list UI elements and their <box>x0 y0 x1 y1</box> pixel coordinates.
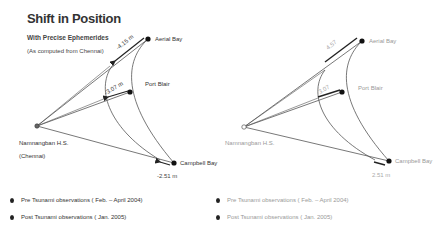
left-diagram: Aerial Bay Port Blair Campbell Bay Namna… <box>19 34 217 179</box>
label-campbell-bay: Campbell Bay <box>180 160 217 166</box>
right-station-campbell-bay-node <box>386 158 391 163</box>
right-diagram: Aerial Bay Port Blair Campbell Bay Namna… <box>225 38 432 178</box>
bullet-icon <box>216 215 220 220</box>
right-label-chennai: Namnangban H.S. <box>225 140 275 146</box>
right-shift-campbell-bay: 2.51 m <box>372 172 390 178</box>
label-chennai: Namnangban H.S. <box>19 140 69 146</box>
right-legend-pre-label: Pre Tsunami observations ( Feb. – April … <box>227 197 349 203</box>
bullet-icon <box>216 198 220 203</box>
right-label-campbell-bay: Campbell Bay <box>395 158 432 164</box>
station-chennai-node <box>35 124 39 128</box>
station-aerial-bay-node <box>145 36 150 41</box>
right-station-port-blair-node <box>339 89 344 94</box>
right-legend-post-label: Post Tsunami observations ( Jan. 2005) <box>227 214 332 220</box>
right-legend-pre-tsunami: Pre Tsunami observations ( Feb. – April … <box>216 197 349 203</box>
label-port-blair: Port Blair <box>145 81 170 87</box>
shift-campbell-bay: -2.51 m <box>157 173 177 179</box>
right-station-chennai-node <box>242 125 246 129</box>
legend-pre-label: Pre Tsunami observations ( Feb. – April … <box>21 197 143 203</box>
right-shift-aerial-bay: 4.57 <box>325 38 338 50</box>
bullet-icon <box>10 215 14 220</box>
right-label-port-blair: Port Blair <box>358 85 383 91</box>
legend-pre-tsunami: Pre Tsunami observations ( Feb. – April … <box>10 197 143 203</box>
right-station-aerial-bay-node <box>359 38 364 43</box>
station-campbell-bay-node <box>171 160 176 165</box>
right-label-aerial-bay: Aerial Bay <box>369 38 396 44</box>
label-chennai-line2: (Chennai) <box>19 153 45 159</box>
label-aerial-bay: Aerial Bay <box>155 36 182 42</box>
legend-post-tsunami: Post Tsunami observations ( Jan. 2005) <box>10 214 126 220</box>
right-legend-post-tsunami: Post Tsunami observations ( Jan. 2005) <box>216 214 332 220</box>
bullet-icon <box>10 198 14 203</box>
station-port-blair-node <box>127 89 132 94</box>
legend-post-label: Post Tsunami observations ( Jan. 2005) <box>21 214 126 220</box>
